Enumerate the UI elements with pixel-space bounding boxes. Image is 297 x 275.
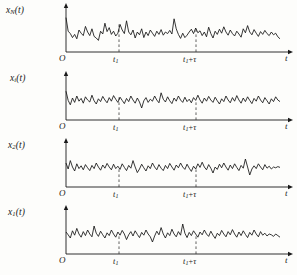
waveform-xi <box>66 91 280 108</box>
ylabel-xi: xi(t) <box>10 74 25 84</box>
panel-xN: xN(t) O t1 t1+τ t <box>0 2 297 70</box>
panel-x2-plot <box>0 137 297 205</box>
ylabel-x2: x2(t) <box>8 141 25 151</box>
tick-label-t1-xN: t1 <box>113 56 118 64</box>
tick-label-t1-x1: t1 <box>113 258 118 266</box>
tick-label-t1-tau-xN: t1+τ <box>183 56 196 64</box>
ylabel-x1: x1(t) <box>8 208 25 218</box>
tick-label-t1-tau-x1: t1+τ <box>183 258 196 266</box>
time-axis-label-x2: t <box>285 189 288 198</box>
panel-x1-plot <box>0 204 297 272</box>
tick-label-t1-x2: t1 <box>113 191 118 199</box>
panel-xN-axes <box>64 3 293 54</box>
panel-xi-plot <box>0 70 297 138</box>
panel-x1-axes <box>64 205 293 256</box>
origin-label-xi: O <box>59 122 66 131</box>
waveform-x1 <box>66 224 280 242</box>
origin-label-xN: O <box>59 54 66 63</box>
time-axis-label-x1: t <box>285 256 288 265</box>
origin-label-x2: O <box>59 189 66 198</box>
random-process-ensemble-figure: xN(t) O t1 t1+τ t xi(t) O t1 t1+τ t <box>0 0 297 275</box>
origin-label-x1: O <box>59 256 66 265</box>
ylabel-xN: xN(t) <box>6 6 24 16</box>
tick-label-t1-tau-xi: t1+τ <box>183 124 196 132</box>
tick-label-t1-xi: t1 <box>113 124 118 132</box>
panel-x2: x2(t) O t1 t1+τ t <box>0 137 297 205</box>
panel-xi: xi(t) O t1 t1+τ t <box>0 70 297 138</box>
time-axis-label-xN: t <box>285 54 288 63</box>
waveform-xN <box>66 18 280 41</box>
panel-x1: x1(t) O t1 t1+τ t <box>0 204 297 272</box>
waveform-x2 <box>66 159 280 175</box>
time-axis-label-xi: t <box>285 122 288 131</box>
tick-label-t1-tau-x2: t1+τ <box>183 191 196 199</box>
panel-xN-plot <box>0 2 297 70</box>
